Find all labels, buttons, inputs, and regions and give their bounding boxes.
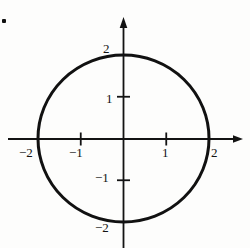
y-axis-label-2: 2 bbox=[103, 42, 110, 55]
x-axis-label-2: 2 bbox=[211, 146, 218, 159]
coordinate-plane-figure: 2 1 −1 −2 −2 −1 1 2 bbox=[0, 0, 250, 248]
x-axis-arrowhead-icon bbox=[233, 135, 243, 143]
circle-plot-svg bbox=[0, 0, 250, 248]
y-axis-label-neg-2: −2 bbox=[95, 221, 109, 234]
y-axis-label-1: 1 bbox=[106, 92, 113, 105]
x-axis-label-1: 1 bbox=[162, 146, 169, 159]
x-axis-label-neg-1: −1 bbox=[69, 146, 83, 159]
x-axis-label-neg-2: −2 bbox=[19, 146, 33, 159]
y-axis-label-neg-1: −1 bbox=[95, 171, 109, 184]
y-axis-arrowhead-icon bbox=[120, 17, 128, 28]
